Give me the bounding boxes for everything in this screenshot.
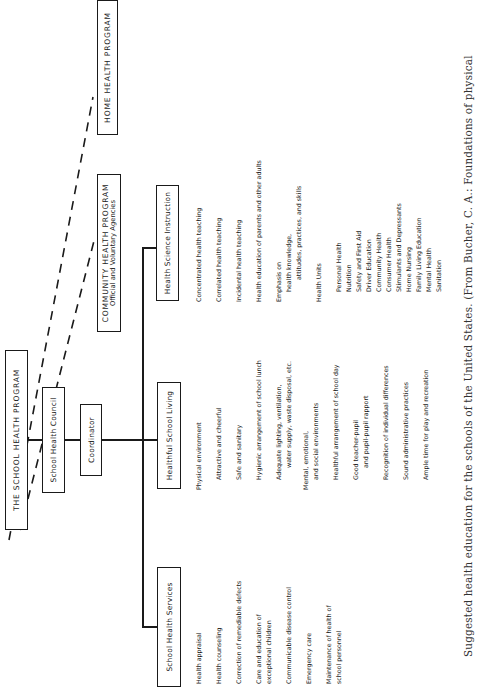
list-item: Safe and sanitary [235,425,242,490]
health-unit: Safety and First Aid [355,231,362,302]
list-item: Good teacher-pupil [352,420,359,490]
living-list: Physical environment Attractive and chee… [195,290,455,490]
list-item: Ample time for play and recreation [422,370,429,490]
list-item: water supply, waste disposal, etc. [285,361,292,490]
list-item: attitudes, practices, and skills [295,186,302,302]
health-unit: Family Living Education [415,218,422,302]
community-subtitle: Official and Voluntary Agencies [110,184,117,323]
figure-caption: Suggested health education for the schoo… [462,55,474,657]
list-item: Health appraisal [195,632,202,684]
list-item: Incidental health teaching [235,220,242,302]
list-item: school personnel [335,631,342,684]
healthful-school-living-box: Healthful School Living [157,382,181,489]
list-item: Emphasis on [275,262,282,302]
health-science-instruction-box: Health Science Instruction [156,185,179,301]
list-item: Health Units [315,263,322,302]
list-item: Mental, emotional, [302,431,309,490]
list-item: Attractive and cheerful [215,408,222,490]
root-label: THE SCHOOL HEALTH PROGRAM [12,369,21,511]
list-item: Sound administrative practices [402,382,409,490]
home-title: HOME HEALTH PROGRAM [103,12,112,123]
list-item: Communicable disease control [285,587,292,684]
list-item: Physical environment [195,422,202,490]
health-unit: Mental Health [425,248,432,302]
health-unit: Sanitation [435,260,442,302]
health-unit: Driver Education [365,239,372,302]
health-unit: Community Health [375,233,382,302]
list-item: Healthful arrangement of school day [332,364,339,490]
list-item: Health counseling [215,627,222,684]
home-health-program-box: HOME HEALTH PROGRAM [97,0,118,135]
branch-tick-living [142,439,158,441]
council-label: School Health Council [49,398,58,483]
school-health-services-box: School Health Services [157,567,181,687]
school-health-council-box: School Health Council [42,387,65,493]
health-unit: Personal Health [335,243,342,302]
instruction-list: Concentrated health teaching Correlated … [195,62,465,302]
branch-spine [142,248,144,628]
instruction-title: Health Science Instruction [163,192,172,294]
community-health-program-box: COMMUNITY HEALTH PROGRAM Official and Vo… [97,174,121,332]
health-unit: Home Nursing [405,247,412,302]
coordinator-label: Coordinator [87,417,96,463]
list-item: Maintenance of health of [325,605,332,684]
rotated-page: THE SCHOOL HEALTH PROGRAM School Health … [0,0,485,687]
list-item: Adequate lighting, ventilation, [275,385,282,490]
school-health-program-box: THE SCHOOL HEALTH PROGRAM [5,350,28,530]
list-item: Hygienic arrangement of school lunch [255,360,262,490]
coordinator-box: Coordinator [80,404,102,476]
services-list: Health appraisal Health counseling Corre… [195,504,445,684]
health-unit: Nutrition [345,264,352,302]
list-item: and pupil-pupil rapport [362,396,369,490]
services-title: School Health Services [165,582,174,671]
list-item: Care and education of [255,614,262,684]
list-item: exceptional children [265,620,272,684]
list-item: Concentrated health teaching [195,208,202,302]
list-item: Emergency care [305,633,312,684]
living-title: Healthful School Living [165,391,174,480]
list-item: Recognition of individual differences [382,365,389,490]
health-unit: Consumer Health [385,237,392,302]
list-item: Health education of parents and other ad… [255,160,262,302]
list-item: health knowledge, [285,234,292,302]
list-item: and social environments [312,403,319,490]
list-item: Correlated health teaching [215,218,222,302]
health-unit: Stimulants and Depressants [395,203,402,302]
list-item: Correction of remediable defects [235,581,242,684]
branch-tick-services [142,626,158,628]
